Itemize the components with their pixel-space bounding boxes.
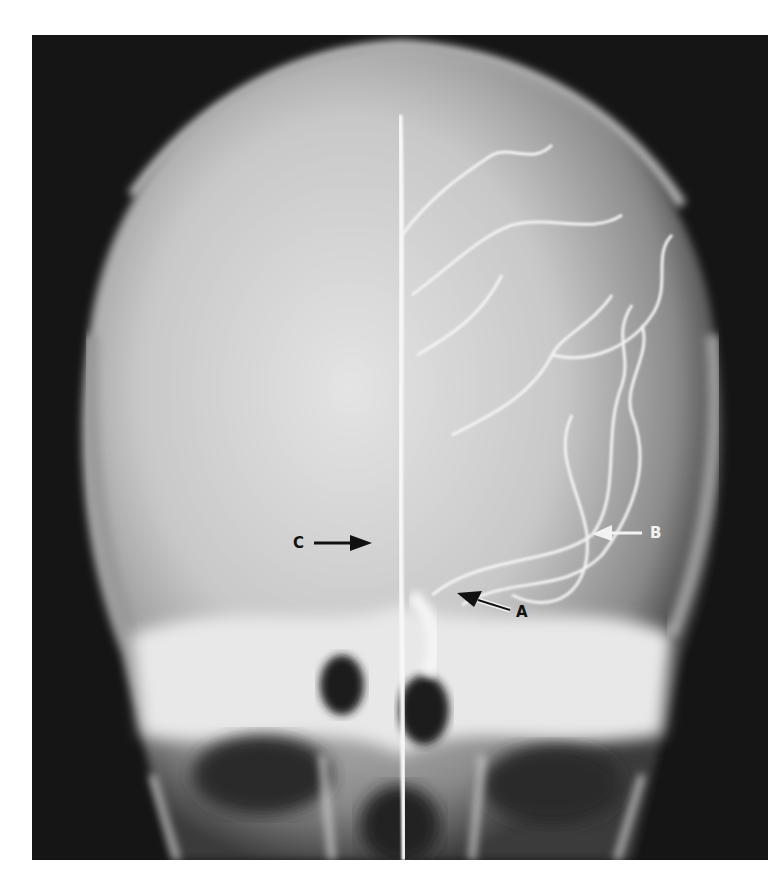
skull-radiograph <box>32 35 768 860</box>
annotation-label-b: B <box>650 526 661 541</box>
angiogram-image: C B A <box>32 35 768 860</box>
annotation-label-a: A <box>516 605 528 620</box>
annotation-label-c: C <box>293 536 304 551</box>
